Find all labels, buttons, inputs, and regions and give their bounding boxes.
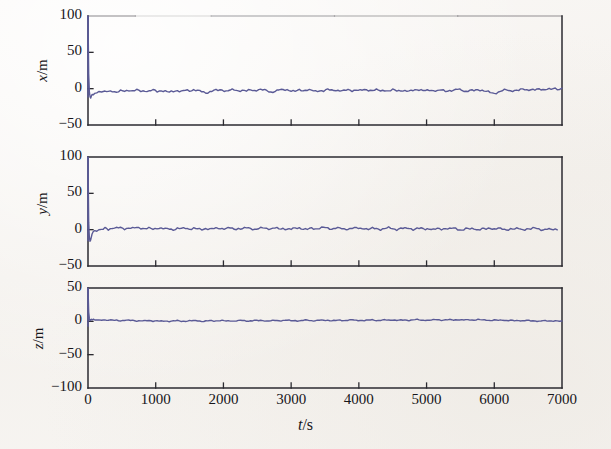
panel-x-ytick-neg50: −50	[20, 115, 82, 132]
x-axis-label: t/s	[0, 416, 611, 434]
x-axis-label-unit: /s	[302, 416, 313, 433]
triple-timeseries-figure: x/m y/m z/m t/s	[0, 0, 611, 449]
panel-x-ytick-0: 0	[20, 79, 82, 96]
panel-y-ytick-0: 0	[20, 220, 82, 237]
panel-y	[0, 140, 611, 290]
xtick-7000: 7000	[522, 391, 602, 408]
panel-z-ytick-50: 50	[20, 278, 82, 295]
panel-x-ytick-100: 100	[20, 6, 82, 23]
panel-x-ytick-50: 50	[20, 42, 82, 59]
figure-page: x/m y/m z/m t/s −50050100−50050100−100−5…	[0, 0, 611, 449]
panel-x	[0, 0, 611, 150]
panel-y-ytick-50: 50	[20, 183, 82, 200]
panel-y-ytick-neg50: −50	[20, 256, 82, 273]
panel-y-plot	[0, 140, 611, 290]
panel-z-ytick-0: 0	[20, 311, 82, 328]
panel-z-ytick-neg50: −50	[20, 345, 82, 362]
panel-x-plot	[0, 0, 611, 150]
panel-y-ytick-100: 100	[20, 147, 82, 164]
